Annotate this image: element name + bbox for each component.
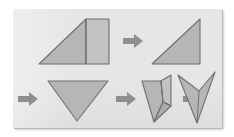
arrow-2 bbox=[18, 91, 39, 107]
arrow-3 bbox=[116, 91, 137, 107]
arrow-right-icon bbox=[18, 92, 38, 106]
step-1-left-triangle-face bbox=[39, 19, 86, 64]
step-4-folded-dart[interactable] bbox=[141, 72, 179, 126]
step-1-right-rectangle-face bbox=[86, 19, 109, 64]
bottom-row bbox=[13, 67, 222, 128]
top-row bbox=[13, 9, 222, 70]
diagram-panel bbox=[13, 9, 222, 128]
step-2-triangle-face bbox=[152, 19, 200, 64]
step-3-triangle-face bbox=[48, 81, 108, 121]
step-5-arrowhead-dart[interactable] bbox=[175, 69, 219, 127]
step-5-dart-face bbox=[178, 72, 215, 123]
step-3-downward-triangle[interactable] bbox=[46, 77, 110, 123]
arrow-right-icon bbox=[116, 92, 136, 106]
arrow-right-icon bbox=[123, 34, 143, 48]
step-2-right-triangle[interactable] bbox=[151, 16, 205, 66]
diagram-canvas: Paper folding sequence bbox=[0, 0, 234, 137]
arrow-1 bbox=[123, 33, 144, 49]
step-1-trapezoid-with-fold-line[interactable] bbox=[38, 16, 112, 66]
diagram-title: Paper folding sequence bbox=[0, 0, 1, 1]
